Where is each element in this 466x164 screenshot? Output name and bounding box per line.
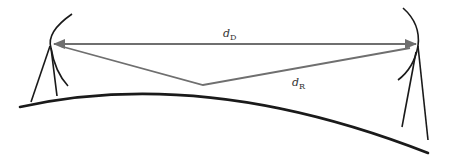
left-tower-leg-outer <box>31 46 50 102</box>
two-ray-diagram: dD dR <box>0 0 466 164</box>
direct-path-label: dD <box>223 27 236 42</box>
right-antenna <box>398 8 428 140</box>
ground-curve <box>20 94 428 153</box>
right-tower-leg-inner <box>402 52 416 127</box>
reflected-ray <box>60 46 410 85</box>
left-dish-icon <box>50 14 72 86</box>
left-tower-leg-inner <box>51 48 57 96</box>
left-antenna <box>31 14 72 102</box>
right-tower-leg-outer <box>418 46 428 140</box>
reflected-path-label: dR <box>292 76 306 91</box>
